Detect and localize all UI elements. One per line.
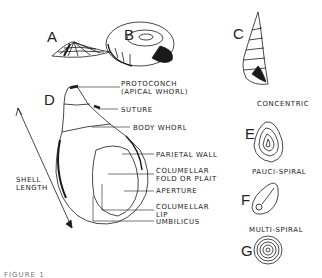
limpet-shell-icon (52, 42, 110, 58)
parietal-wall-label: PARIETAL WALL (156, 151, 218, 159)
shell-length-label: SHELL LENGTH (16, 176, 48, 192)
suture-label: SUTURE (121, 106, 153, 114)
multi-spiral-operculum-icon (254, 236, 282, 264)
panel-letter-g: G (241, 243, 253, 258)
body-whorl-label: BODY WHORL (133, 124, 187, 132)
pauci-spiral-title: PAUCI-SPIRAL (252, 168, 306, 176)
panel-letter-c: C (233, 26, 244, 41)
shell-morphology-figure: A B C D E F G CONCENTRIC PAUCI-SPIRAL MU… (0, 0, 322, 278)
panel-letter-a: A (47, 29, 57, 44)
concentric-operculum-icon (254, 122, 283, 162)
protoconch-label: PROTOCONCH (APICAL WHORL) (121, 80, 188, 96)
columellar-lip-label: COLUMELLAR LIP (156, 203, 209, 219)
columellar-fold-label: COLUMELLAR FOLD OR PLAIT (156, 167, 217, 183)
figure-caption: FIGURE 1 (4, 271, 45, 278)
aperture-label: APERTURE (156, 187, 197, 195)
umbilicus-label: UMBILICUS (156, 218, 200, 226)
pauci-spiral-operculum-icon (252, 183, 278, 214)
concentric-title: CONCENTRIC (257, 100, 309, 108)
shell-length-arrow-icon (16, 108, 72, 228)
panel-letter-d: D (44, 92, 55, 107)
multi-spiral-title: MULTI-SPIRAL (249, 226, 303, 234)
panel-letter-f: F (241, 192, 250, 207)
planispiral-shell-icon (106, 22, 174, 66)
high-spired-shell-icon (243, 12, 268, 84)
panel-letter-e: E (245, 126, 255, 141)
panel-letter-b: B (124, 27, 134, 42)
